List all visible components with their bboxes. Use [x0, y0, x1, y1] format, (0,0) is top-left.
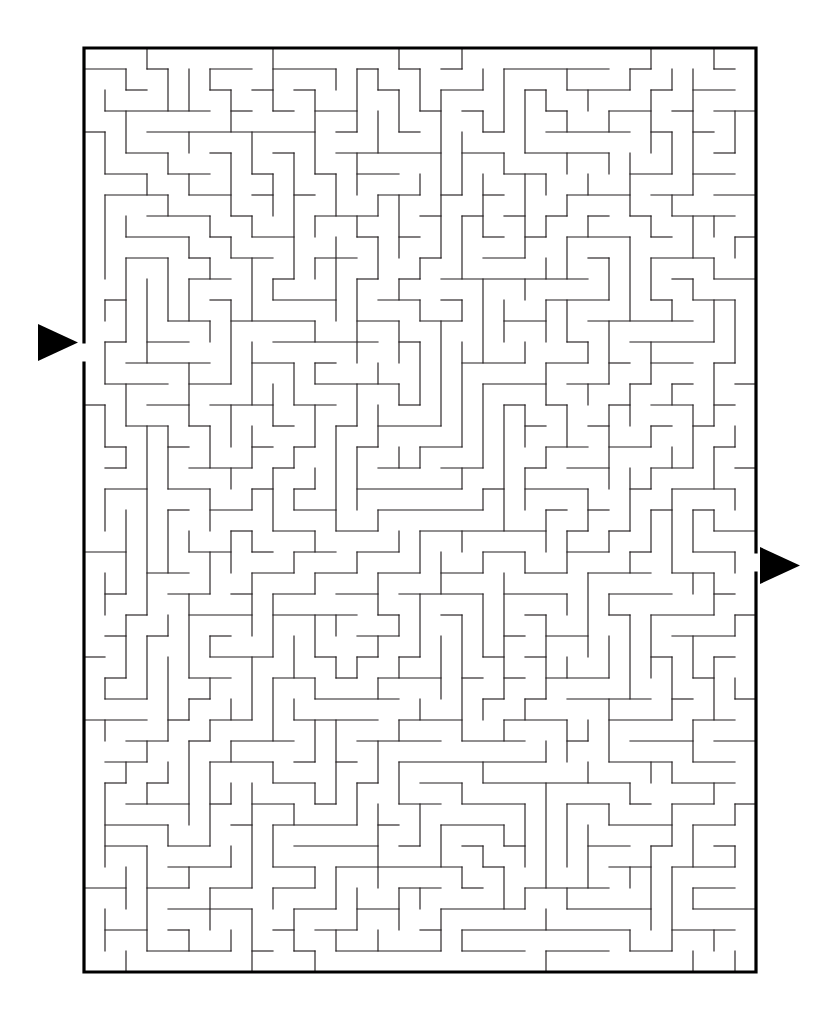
maze-canvas [0, 0, 830, 1021]
maze-interior-walls [84, 48, 756, 972]
maze-figure [0, 0, 830, 1021]
entrance-arrow-icon [38, 324, 78, 361]
puzzle-page: Maze Puzzle Entrance Exit [0, 0, 830, 1021]
exit-arrow-icon [760, 547, 800, 584]
